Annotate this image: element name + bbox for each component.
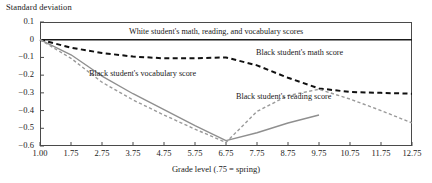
x-axis-title: Grade level (.75 = spring) [0, 164, 432, 174]
y-tick-label: −0.5 [2, 122, 34, 132]
y-tick-label: −0.2 [2, 69, 34, 79]
chart-figure: Standard deviation 0.10−0.1−0.2−0.3−0.4−… [0, 0, 432, 183]
y-tick-label: −0.3 [2, 87, 34, 97]
series-annotation-0: White student's math, reading, and vocab… [129, 27, 303, 36]
series-annotation-2: Black student's vocabulary score [89, 69, 196, 78]
series-annotation-1: Black student's math score [256, 48, 343, 57]
series-line-3 [40, 40, 412, 143]
data-series-group [40, 40, 412, 143]
y-tick-label: −0.4 [2, 105, 34, 115]
y-tick-label: −0.1 [2, 51, 34, 61]
y-tick-label: 0.1 [2, 16, 34, 26]
series-line-1 [40, 40, 412, 94]
series-annotation-3: Black student's reading score [236, 92, 331, 101]
axis-ticks [40, 22, 412, 146]
x-tick-label: 12.75 [392, 148, 432, 158]
y-tick-label: 0 [2, 34, 34, 44]
